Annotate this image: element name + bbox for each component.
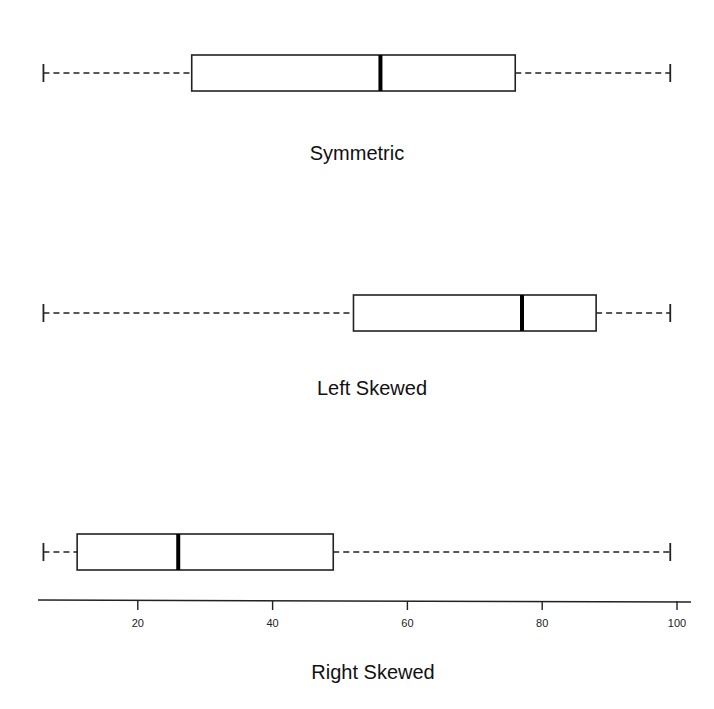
boxplot-chart: Symmetric Left Skewed Right Skewed 20406… xyxy=(0,0,714,709)
x-tick-label: 80 xyxy=(536,617,548,629)
x-tick-label: 20 xyxy=(132,617,144,629)
x-tick-label: 40 xyxy=(266,617,278,629)
x-tick-label: 60 xyxy=(401,617,413,629)
box-right-skewed xyxy=(43,534,670,570)
box-symmetric xyxy=(43,55,670,91)
label-symmetric: Symmetric xyxy=(310,142,404,164)
label-left-skewed: Left Skewed xyxy=(317,377,427,399)
x-axis: 20406080100 xyxy=(38,600,691,629)
label-right-skewed: Right Skewed xyxy=(311,661,434,683)
x-tick-label: 100 xyxy=(668,617,686,629)
box-left-skewed xyxy=(43,295,670,331)
